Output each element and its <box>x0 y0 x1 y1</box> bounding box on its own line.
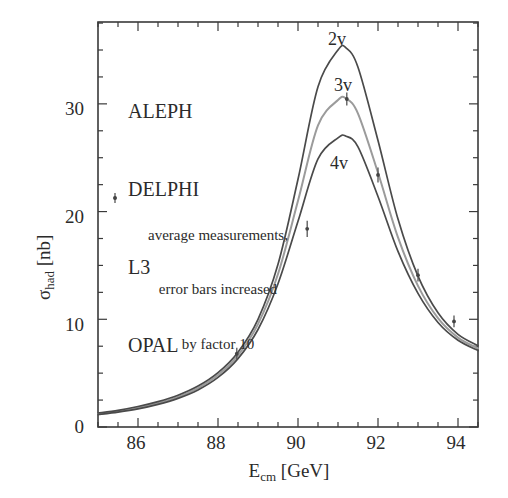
y-tick-label-30: 30 <box>40 99 84 119</box>
measurement-point <box>452 316 456 328</box>
x-tick-label-88: 88 <box>194 433 238 453</box>
x-tick-label-90: 90 <box>274 433 318 453</box>
measurement-marker <box>416 273 420 277</box>
y-axis-title-main: σ <box>33 290 54 300</box>
measurement-marker <box>376 173 380 177</box>
x-axis-title: Ecm [GeV] <box>189 461 389 481</box>
x-axis-title-sub: cm <box>260 469 276 484</box>
experiment-item-aleph: ALEPH <box>128 98 199 124</box>
measurement-legend: average measurements, error bars increas… <box>123 189 313 390</box>
x-axis-title-main: E <box>249 460 261 481</box>
legend-line-1: average measurements, <box>123 226 313 244</box>
x-tick-label-86: 86 <box>114 433 158 453</box>
curve-label-2nu: 2v <box>328 30 346 49</box>
legend-line-2: error bars increased <box>123 280 313 298</box>
legend-marker-icon <box>113 196 117 200</box>
curve-label-4nu: 4v <box>330 154 348 173</box>
y-tick-label-0: 0 <box>40 417 84 437</box>
y-axis-title: σhad [nb] <box>34 235 54 300</box>
figure-root: 30 20 10 0 86 88 90 92 94 Ecm [GeV] σhad… <box>0 0 508 498</box>
legend-sample-marker <box>113 193 117 203</box>
measurement-marker <box>452 320 456 324</box>
curve-label-3nu: 3v <box>334 76 352 95</box>
y-tick-label-10: 10 <box>40 315 84 335</box>
y-tick-label-20: 20 <box>40 207 84 227</box>
x-axis-title-unit: [GeV] <box>276 460 329 481</box>
y-axis-title-unit: [nb] <box>33 235 54 271</box>
legend-line-3: by factor 10 <box>123 335 313 353</box>
y-axis-title-sub: had <box>42 271 57 290</box>
x-tick-label-94: 94 <box>434 433 478 453</box>
x-tick-label-92: 92 <box>354 433 398 453</box>
measurement-marker <box>345 97 349 101</box>
